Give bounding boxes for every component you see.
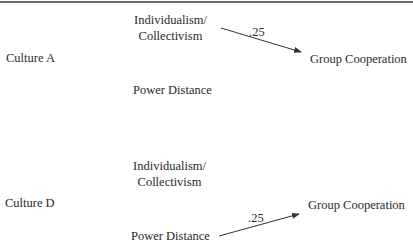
culture-d-arrow (219, 214, 299, 236)
culture-a-arrow (221, 28, 301, 52)
path-arrows (0, 0, 413, 247)
